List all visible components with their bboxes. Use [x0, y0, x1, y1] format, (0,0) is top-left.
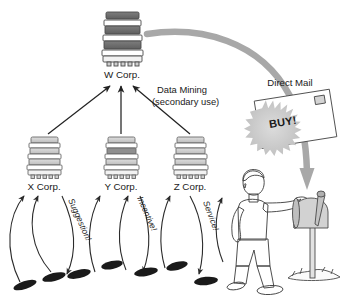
arrow-up-6: [216, 198, 223, 262]
arrow-up-1: [10, 196, 24, 282]
office-building-icon-z: [173, 137, 208, 179]
shoe-icon-4: [100, 259, 123, 271]
node-x-corp[interactable]: X Corp.: [27, 137, 62, 192]
node-z-corp[interactable]: Z Corp.: [173, 137, 208, 192]
shoe-icon-3: [66, 267, 91, 281]
shoe-icon-7: [194, 276, 219, 287]
data-mining-label-line1: Data Mining: [157, 84, 207, 95]
shoe-icon-6: [165, 259, 188, 272]
arrow-down-3: [190, 196, 203, 274]
data-mining-annotation: Data Mining (secondary use): [152, 84, 219, 107]
arrow-up-2: [32, 196, 51, 272]
shoe-icon-2: [41, 270, 66, 284]
exchange-arrows: [10, 196, 223, 282]
diagram-canvas: W Corp. Data Mining (secondary use) Dire…: [0, 0, 356, 301]
exchange-label-incentive: Incentive!: [135, 195, 159, 233]
mailbox-icon[interactable]: [288, 191, 340, 281]
direct-mail-label: Direct Mail: [267, 77, 312, 88]
node-label-z-corp: Z Corp.: [174, 181, 207, 192]
office-building-icon-y: [104, 137, 139, 179]
postcard-icon[interactable]: BUY!: [240, 89, 338, 160]
node-label-x-corp: X Corp.: [27, 181, 60, 192]
footprints-group: [12, 259, 218, 293]
office-building-icon-x: [27, 137, 62, 179]
arrow-up-4: [119, 196, 128, 270]
exchange-label-service: Service!: [201, 199, 221, 232]
arrow-x-to-w: [48, 86, 110, 134]
node-y-corp[interactable]: Y Corp.: [104, 137, 139, 192]
node-label-w-corp: W Corp.: [104, 69, 140, 80]
shoe-icon-1: [12, 277, 37, 292]
node-label-y-corp: Y Corp.: [104, 181, 137, 192]
office-building-icon-w: [102, 12, 143, 66]
node-w-corp[interactable]: W Corp.: [102, 12, 143, 80]
diagram-illustration: W Corp. Data Mining (secondary use) Dire…: [0, 0, 356, 301]
shoe-icon-5: [133, 266, 158, 278]
arrow-up-5: [161, 196, 170, 268]
data-mining-label-line2: (secondary use): [152, 96, 219, 107]
